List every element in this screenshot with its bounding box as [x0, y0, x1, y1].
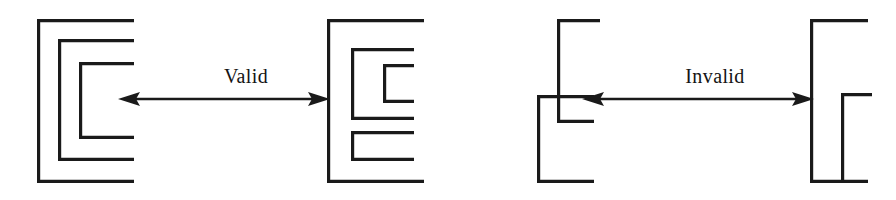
valid-right-shape: [329, 21, 424, 182]
valid-double-arrow: [118, 92, 330, 106]
invalid-left-bracket-tall: [559, 21, 600, 122]
valid-right-bracket-lower: [353, 133, 414, 160]
invalid-left-bracket-low: [539, 97, 594, 182]
valid-right-bracket-upper-inner: [385, 66, 414, 102]
invalid-right-shape: [812, 21, 872, 182]
invalid-right-bracket-outer: [812, 21, 868, 182]
valid-left-shape: [39, 21, 134, 182]
invalid-double-arrow: [582, 92, 814, 106]
valid-left-bracket-outer: [39, 21, 134, 182]
invalid-right-bracket-inner: [843, 95, 872, 182]
valid-label: Valid: [176, 66, 316, 86]
bracket-diagram-svg: [0, 0, 896, 200]
figure-canvas: Valid Invalid: [0, 0, 896, 200]
invalid-label: Invalid: [640, 66, 790, 86]
